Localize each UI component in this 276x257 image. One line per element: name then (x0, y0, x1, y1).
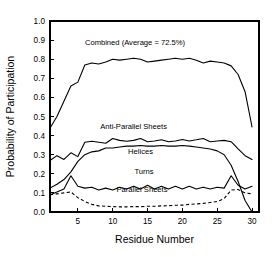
y-tick-label: 0.7 (34, 74, 46, 83)
y-tick-label: 1.0 (34, 17, 46, 26)
chart-figure: 0.00.10.20.30.40.50.60.70.80.91.0 510152… (0, 0, 276, 257)
series-annotation-group: Combined (Average = 72.5%)Anti-Parallel … (85, 38, 186, 194)
probability-of-participation-line-chart: 0.00.10.20.30.40.50.60.70.80.91.0 510152… (0, 0, 276, 257)
y-tick-label: 0.3 (34, 151, 46, 160)
series-label-anti-parallel-sheets: Anti-Parallel Sheets (100, 122, 167, 131)
y-tick-label: 0.9 (34, 36, 46, 45)
x-axis-title: Residue Number (115, 233, 194, 245)
x-axis-ticks: 51015202530 (76, 208, 257, 226)
y-tick-label: 0.8 (34, 55, 46, 64)
x-tick-label: 10 (108, 217, 118, 226)
series-label-turns: Turns (134, 167, 153, 176)
y-tick-label: 0.0 (34, 208, 46, 217)
y-tick-label: 0.4 (34, 132, 46, 141)
y-tick-label: 0.1 (34, 189, 46, 198)
x-tick-label: 20 (178, 217, 188, 226)
y-axis-title: Probability of Participation (4, 56, 16, 178)
x-tick-label: 5 (76, 217, 81, 226)
series-line-combined-average-72-5 (50, 58, 252, 128)
y-tick-label: 0.2 (34, 170, 46, 179)
x-tick-label: 25 (213, 217, 223, 226)
x-tick-label: 15 (143, 217, 153, 226)
series-label-combined-average-72-5: Combined (Average = 72.5%) (85, 38, 186, 47)
y-tick-label: 0.5 (34, 113, 46, 122)
series-label-parallel-sheets: Parallel Sheets (116, 185, 167, 194)
plot-axes-frame (50, 21, 259, 212)
x-tick-label: 30 (247, 217, 257, 226)
y-tick-label: 0.6 (34, 93, 46, 102)
series-label-helices: Helices (128, 147, 153, 156)
